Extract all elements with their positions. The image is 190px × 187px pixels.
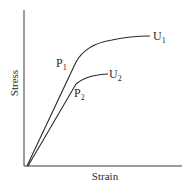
label-u1: U1	[153, 29, 166, 45]
label-p1: P1	[56, 56, 67, 72]
curve-1	[27, 36, 150, 166]
stress-strain-diagram: P1 P2 U1 U2 Strain Stress	[0, 0, 190, 187]
label-u2: U2	[109, 67, 122, 83]
label-p2: P2	[74, 86, 85, 102]
curve-2	[28, 74, 108, 166]
x-axis-label: Strain	[92, 170, 119, 182]
y-axis-label: Stress	[8, 70, 20, 96]
